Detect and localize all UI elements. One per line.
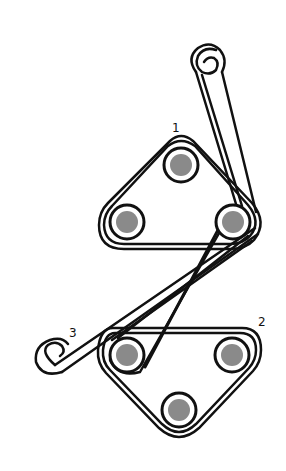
pulley-bottom bbox=[162, 393, 196, 427]
label-unit1: 1 bbox=[172, 122, 180, 134]
pulley-top bbox=[164, 148, 198, 182]
unit2-pulleys bbox=[110, 338, 249, 427]
pulley-left bbox=[110, 205, 144, 239]
label-belt3: 3 bbox=[69, 327, 77, 339]
pulley-right bbox=[216, 205, 250, 239]
label-unit2: 2 bbox=[258, 316, 266, 328]
pulley-left bbox=[110, 338, 144, 372]
diagram-canvas bbox=[0, 0, 286, 471]
belt-diagram: 1 2 3 bbox=[0, 0, 286, 471]
pulley-right bbox=[215, 338, 249, 372]
